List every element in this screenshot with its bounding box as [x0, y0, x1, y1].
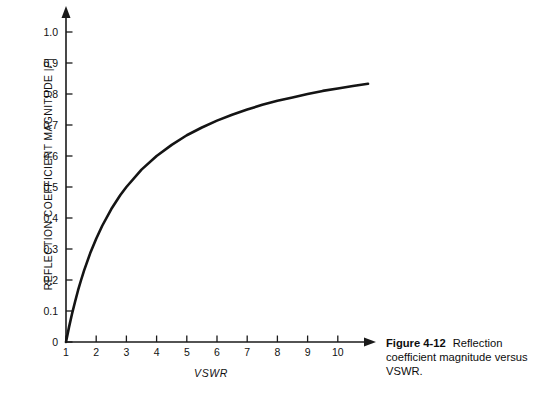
x-tick-label: 6	[214, 346, 220, 358]
x-tick-label: 9	[305, 346, 311, 358]
x-tick-group: 12345678910	[63, 336, 344, 359]
axes-group	[62, 6, 377, 347]
y-axis-title-text: REFLECTION COEFFICIENT MAGNITUDE |P|	[43, 58, 54, 290]
x-tick-label: 3	[123, 346, 129, 358]
x-axis-arrow-icon	[364, 338, 376, 347]
y-axis-arrow-icon	[62, 6, 71, 18]
x-tick-label: 8	[274, 346, 280, 358]
y-tick-label: 0	[52, 336, 58, 348]
x-axis-title: VSWR	[194, 367, 228, 379]
figure-container: 00.10.20.30.40.50.60.70.80.91.0 12345678…	[0, 0, 558, 403]
y-axis-title: REFLECTION COEFFICIENT MAGNITUDE |P|	[39, 29, 57, 319]
x-tick-label: 4	[154, 346, 160, 358]
y-axis-title-suffix: |	[43, 58, 54, 61]
reflection-coefficient-curve	[66, 84, 368, 342]
x-tick-label: 2	[93, 346, 99, 358]
figure-number: Figure 4-12	[386, 337, 446, 349]
x-tick-label: 1	[63, 346, 69, 358]
x-tick-label: 7	[244, 346, 250, 358]
x-tick-label: 10	[332, 346, 344, 358]
figure-caption: Figure 4-12Reflection coefficient magnit…	[386, 336, 554, 379]
y-axis-title-prefix: REFLECTION COEFFICIENT MAGNITUDE |	[43, 68, 54, 290]
y-axis-title-symbol: P	[43, 61, 54, 68]
x-tick-label: 5	[184, 346, 190, 358]
